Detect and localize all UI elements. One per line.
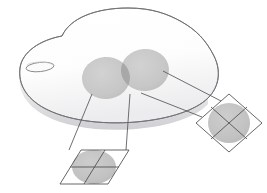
blob-diagram [0, 0, 267, 193]
figure-container [0, 0, 267, 193]
inset-parallelogram[interactable] [60, 150, 129, 184]
